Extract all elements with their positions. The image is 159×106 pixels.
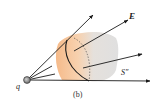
field-label: E bbox=[128, 11, 135, 21]
electric-flux-diagram: q E S″ (b) bbox=[0, 0, 159, 106]
figure-caption: (b) bbox=[73, 90, 83, 99]
point-charge-icon bbox=[24, 77, 31, 84]
charge-label: q bbox=[16, 82, 20, 91]
surface-region bbox=[56, 32, 118, 81]
field-line-3-inner bbox=[27, 74, 55, 80]
surface-label: S″ bbox=[121, 68, 129, 77]
